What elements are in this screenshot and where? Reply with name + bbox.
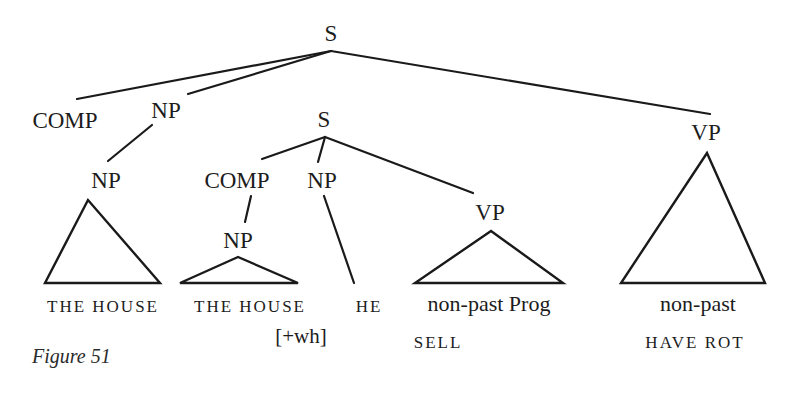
node-np-subject: NP [307,169,336,192]
leaf-vp-main-tense: non-past [660,293,736,315]
node-vp-main: VP [691,121,720,144]
edge-np-subject-to-he [324,196,354,283]
edge-s-to-comp [77,51,331,99]
edge-s2-to-np [318,137,325,162]
leaf-vp-embedded-verb: SELL [414,334,463,351]
leaf-vp-main-verb: HAVE ROT [645,334,744,351]
edge-s2-to-comp [262,137,325,159]
triangle-vp-main [621,153,765,283]
edge-s2-to-vp [325,137,473,193]
node-vp-embedded: VP [475,201,504,224]
triangle-np-head [45,200,160,283]
node-comp-embedded: COMP [204,169,269,192]
leaf-vp-embedded-tense: non-past Prog [428,293,551,315]
edge-np-to-np-head [108,125,152,161]
edge-s-to-np [188,51,331,94]
leaf-head-noun: THE HOUSE [47,298,159,315]
figure-caption: Figure 51 [32,345,111,368]
leaf-subject: HE [356,298,383,315]
leaf-wh-noun: THE HOUSE [194,298,306,315]
node-root-s: S [325,22,338,45]
leaf-wh-feature: [+wh] [275,326,327,347]
triangle-np-wh [180,257,298,283]
node-np-wh: NP [223,229,252,252]
edge-comp2-to-np-wh [245,196,251,222]
node-s-embedded: S [318,108,331,131]
node-np-head: NP [91,169,120,192]
node-comp-top: COMP [32,109,97,132]
edge-s-to-vp [331,51,710,114]
triangle-vp-embedded [415,231,563,283]
node-np-top: NP [151,99,180,122]
